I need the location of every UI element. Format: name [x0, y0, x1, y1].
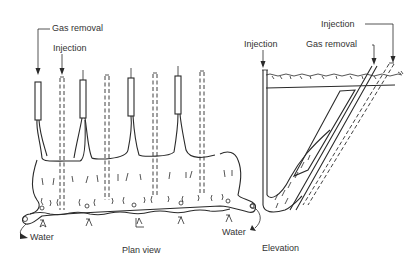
elevation-view [250, 24, 403, 212]
elevation-gas-removal-label: Gas removal [306, 40, 357, 49]
caved-rock-hatching [41, 170, 232, 206]
plan-view [20, 29, 260, 239]
water-right-label: Water [222, 228, 246, 237]
ground-surface [262, 70, 402, 76]
arrow-down-icon [391, 56, 396, 63]
arrow-down-icon [372, 58, 377, 65]
elevation-caption: Elevation [262, 244, 299, 253]
elevation-injection-top-label: Injection [321, 20, 355, 29]
arrow-down-icon [36, 68, 41, 75]
gas-removal-leader [38, 29, 50, 73]
water-outlet-right [255, 208, 260, 228]
water-left-label: Water [30, 233, 54, 242]
plan-view-caption: Plan view [122, 246, 161, 255]
injection-label: Injection [53, 44, 87, 53]
arrow-icon [20, 233, 28, 239]
mine-fire-diagram: Gas removal Injection Water Water Plan v… [0, 0, 413, 271]
arrow-down-icon [60, 68, 65, 75]
injection-wells [60, 71, 204, 210]
pump-symbols [40, 215, 232, 227]
elevation-injection-label: Injection [244, 40, 278, 49]
vertical-borehole [263, 70, 267, 205]
gas-removal-wells [35, 66, 181, 120]
gas-removal-label: Gas removal [52, 24, 103, 33]
inclined-injection-leader [365, 24, 393, 60]
caved-zone-hatching [275, 155, 310, 208]
arrow-down-icon [261, 61, 266, 68]
